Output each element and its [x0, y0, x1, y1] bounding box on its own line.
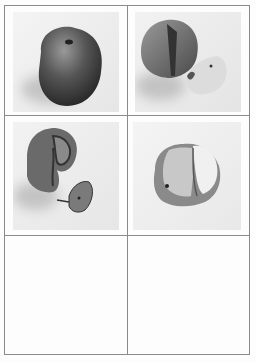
panel-empty-right — [128, 236, 249, 354]
panel-whole-apple — [13, 12, 119, 112]
panel-browned-cut-apple — [13, 122, 119, 230]
apple-image — [13, 12, 119, 112]
cut-apple-image — [135, 12, 241, 112]
storyboard-grid — [4, 5, 250, 355]
browned-apple-image — [13, 122, 119, 230]
panel-exposed-flesh-apple — [133, 122, 241, 230]
row-divider-1 — [5, 115, 249, 116]
exposed-apple-image — [133, 122, 241, 230]
panel-empty-left — [5, 236, 127, 354]
panel-apple-wedge-cut — [135, 12, 241, 112]
